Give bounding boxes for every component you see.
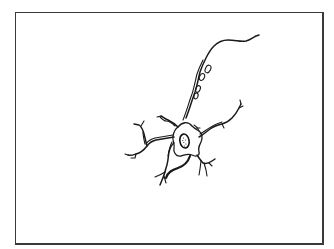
axon xyxy=(183,35,259,120)
neuron-illustration xyxy=(0,0,334,249)
dendrite-lower-right xyxy=(197,155,215,176)
dendrite-left xyxy=(125,121,174,158)
axon-bead xyxy=(204,64,212,73)
dendrite-lower xyxy=(166,156,190,178)
dendrite-right xyxy=(194,100,243,137)
dendrite-lower-left xyxy=(155,142,174,185)
dendrite-upper-left xyxy=(157,116,178,127)
axon-bead xyxy=(195,85,202,93)
